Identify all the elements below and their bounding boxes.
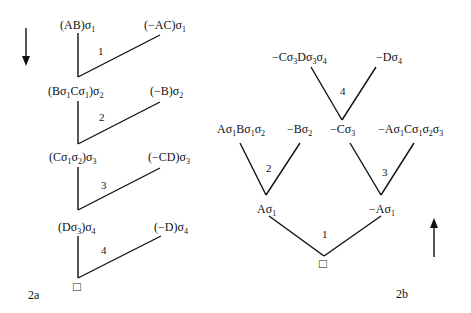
step-label-a2: 2 bbox=[99, 112, 105, 123]
figure-canvas: (AB)σ1 (−AC)σ1 1 (Bσ1Cσ1)σ2 (−B)σ2 2 (Cσ… bbox=[0, 0, 471, 313]
node-b1-left: Aσ1 bbox=[257, 203, 276, 215]
step-label-b4: 4 bbox=[340, 86, 346, 97]
node-a3-left: (Cσ1σ2)σ3 bbox=[49, 151, 96, 163]
step-label-b2: 2 bbox=[266, 163, 272, 174]
node-b2-a: Aσ1Bσ1σ2 bbox=[217, 123, 265, 135]
node-b3-right: −Dσ4 bbox=[376, 51, 402, 63]
root-box-a: □ bbox=[73, 281, 81, 293]
arrow-up-icon bbox=[430, 218, 438, 228]
caption-2a: 2a bbox=[28, 289, 39, 301]
node-b2-b: −Bσ2 bbox=[287, 123, 312, 135]
node-b1-right: −Aσ1 bbox=[369, 203, 395, 215]
step-label-b3: 3 bbox=[382, 167, 388, 178]
caption-2b: 2b bbox=[396, 288, 408, 300]
root-box-b: □ bbox=[319, 258, 327, 270]
node-a2-right: (−B)σ2 bbox=[150, 85, 183, 97]
node-a1-right: (−AC)σ1 bbox=[144, 19, 186, 31]
node-b3-left: −Cσ3Dσ3σ4 bbox=[272, 51, 327, 63]
node-a1-left: (AB)σ1 bbox=[60, 19, 95, 31]
node-b2-c: −Cσ3 bbox=[330, 123, 355, 135]
arrow-down-icon bbox=[22, 56, 30, 66]
node-a4-left: (Dσ3)σ4 bbox=[58, 221, 96, 233]
step-label-a1: 1 bbox=[98, 46, 104, 57]
step-label-a4: 4 bbox=[101, 245, 107, 256]
node-a4-right: (−D)σ4 bbox=[154, 221, 188, 233]
step-label-b1: 1 bbox=[322, 229, 328, 240]
node-b2-d: −Aσ1Cσ1σ2σ3 bbox=[378, 123, 443, 135]
node-a3-right: (−CD)σ3 bbox=[148, 151, 190, 163]
step-label-a3: 3 bbox=[101, 180, 107, 191]
node-a2-left: (Bσ1Cσ1)σ2 bbox=[48, 85, 103, 97]
